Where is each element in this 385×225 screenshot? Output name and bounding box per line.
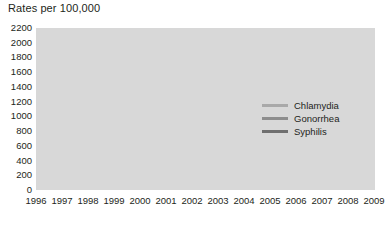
x-axis-tick-label: 2008 xyxy=(337,196,358,206)
x-axis-tick-label: 1998 xyxy=(77,196,98,206)
x-axis-labels: 1996199719981999200020012002200320042005… xyxy=(36,196,375,214)
x-axis-tick-label: 1996 xyxy=(25,196,46,206)
x-axis-tick-label: 1999 xyxy=(103,196,124,206)
x-axis-tick-label: 2004 xyxy=(233,196,254,206)
y-axis-labels: 2200200018001600140012001000800600400200… xyxy=(0,28,34,190)
y-axis-tick-label: 1000 xyxy=(11,112,32,122)
x-axis-tick-label: 1997 xyxy=(51,196,72,206)
legend-label: Chlamydia xyxy=(294,101,339,111)
chart-title: Rates per 100,000 xyxy=(8,2,100,14)
legend-item-gonorrhea[interactable]: Gonorrhea xyxy=(262,112,339,125)
legend-item-syphilis[interactable]: Syphilis xyxy=(262,125,339,138)
x-axis-tick-label: 2007 xyxy=(311,196,332,206)
y-axis-tick-label: 2200 xyxy=(11,23,32,33)
x-axis-tick-label: 2003 xyxy=(207,196,228,206)
legend-label: Gonorrhea xyxy=(294,114,339,124)
y-axis-tick-label: 0 xyxy=(27,185,32,195)
x-axis-tick-label: 2002 xyxy=(181,196,202,206)
y-axis-tick-label: 400 xyxy=(16,156,32,166)
x-axis-tick-label: 2006 xyxy=(285,196,306,206)
legend-label: Syphilis xyxy=(294,127,327,137)
legend-item-chlamydia[interactable]: Chlamydia xyxy=(262,99,339,112)
y-axis-tick-label: 1600 xyxy=(11,67,32,77)
y-axis-tick-label: 1800 xyxy=(11,53,32,63)
y-axis-tick-label: 800 xyxy=(16,126,32,136)
legend-color-swatch xyxy=(262,117,288,120)
legend-color-swatch xyxy=(262,104,288,107)
chart-container: Rates per 100,000 2200200018001600140012… xyxy=(0,0,385,225)
y-axis-tick-label: 200 xyxy=(16,171,32,181)
x-axis-tick-label: 2005 xyxy=(259,196,280,206)
legend-color-swatch xyxy=(262,130,288,133)
x-axis-tick-label: 2009 xyxy=(363,196,384,206)
y-axis-tick-label: 2000 xyxy=(11,38,32,48)
y-axis-tick-label: 600 xyxy=(16,141,32,151)
chart-legend: ChlamydiaGonorrheaSyphilis xyxy=(262,99,339,138)
x-axis-tick-label: 2001 xyxy=(155,196,176,206)
y-axis-tick-label: 1400 xyxy=(11,82,32,92)
y-axis-tick-label: 1200 xyxy=(11,97,32,107)
x-axis-tick-label: 2000 xyxy=(129,196,150,206)
